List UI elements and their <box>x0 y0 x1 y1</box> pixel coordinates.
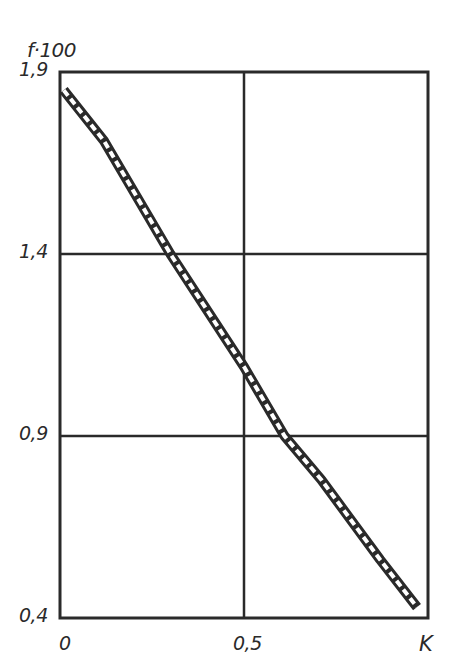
x-axis-label: K <box>419 632 432 656</box>
band-outline <box>64 90 417 607</box>
data-band <box>64 90 417 607</box>
y-tick-label: 1,4 <box>19 240 48 262</box>
x-tick-label: 0,5 <box>233 632 262 654</box>
x-tick-label: 0 <box>59 632 71 654</box>
y-tick-label: 0,9 <box>19 422 48 444</box>
y-tick-label: 1,9 <box>19 58 48 80</box>
y-tick-label: 0,4 <box>19 604 48 626</box>
chart-canvas <box>0 0 461 668</box>
